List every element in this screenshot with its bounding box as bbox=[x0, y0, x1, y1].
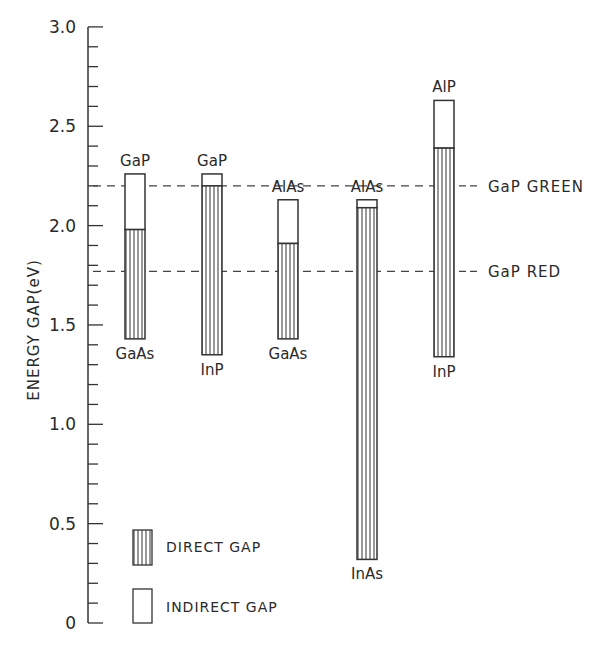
bar-gap-gaas: GaPGaAs bbox=[116, 152, 155, 363]
indirect-segment bbox=[278, 200, 298, 244]
bar-bottom-label: GaAs bbox=[269, 345, 308, 363]
y-tick-label: 0.5 bbox=[49, 514, 76, 534]
y-axis: 00.51.01.52.02.53.0 bbox=[49, 17, 103, 633]
bar-alas-inas: AlAsInAs bbox=[351, 178, 384, 584]
reference-line-label: GaP GREEN bbox=[488, 178, 584, 196]
bar-bottom-label: InP bbox=[201, 361, 224, 379]
direct-segment bbox=[357, 208, 377, 560]
direct-segment bbox=[278, 243, 298, 338]
bar-bottom-label: InAs bbox=[351, 565, 383, 583]
bar-top-label: AlP bbox=[432, 78, 455, 96]
legend-indirect-label: INDIRECT GAP bbox=[166, 599, 278, 615]
bar-bottom-label: InP bbox=[433, 363, 456, 381]
reference-line-label: GaP RED bbox=[488, 263, 561, 281]
y-tick-label: 3.0 bbox=[49, 17, 76, 37]
reference-lines: GaP GREENGaP RED bbox=[93, 178, 584, 281]
bars: GaPGaAsGaPInPAlAsGaAsAlAsInAsAlPInP bbox=[116, 78, 456, 583]
y-axis-title: ENERGY GAP(eV) bbox=[25, 259, 43, 401]
indirect-segment bbox=[125, 174, 145, 230]
bar-alas-gaas: AlAsGaAs bbox=[269, 178, 308, 363]
energy-gap-chart: 00.51.01.52.02.53.0 GaP GREENGaP RED GaP… bbox=[0, 0, 615, 655]
indirect-segment bbox=[202, 174, 222, 186]
bar-top-label: GaP bbox=[197, 152, 227, 170]
indirect-segment bbox=[357, 200, 377, 208]
legend-indirect-swatch bbox=[133, 589, 152, 623]
y-tick-label: 0 bbox=[65, 613, 76, 633]
y-tick-label: 2.5 bbox=[49, 116, 76, 136]
y-tick-label: 2.0 bbox=[49, 216, 76, 236]
bar-alp-inp: AlPInP bbox=[432, 78, 455, 380]
bar-gap-inp: GaPInP bbox=[197, 152, 227, 379]
bar-top-label: AlAs bbox=[272, 178, 305, 196]
direct-segment bbox=[125, 230, 145, 339]
direct-segment bbox=[202, 186, 222, 355]
y-tick-label: 1.5 bbox=[49, 315, 76, 335]
legend-direct-swatch bbox=[133, 530, 152, 565]
bar-top-label: AlAs bbox=[351, 178, 384, 196]
legend: DIRECT GAP INDIRECT GAP bbox=[133, 530, 278, 623]
y-tick-label: 1.0 bbox=[49, 414, 76, 434]
indirect-segment bbox=[434, 100, 454, 148]
bar-top-label: GaP bbox=[120, 152, 150, 170]
direct-segment bbox=[434, 148, 454, 357]
legend-direct-label: DIRECT GAP bbox=[166, 539, 261, 555]
bar-bottom-label: GaAs bbox=[116, 345, 155, 363]
